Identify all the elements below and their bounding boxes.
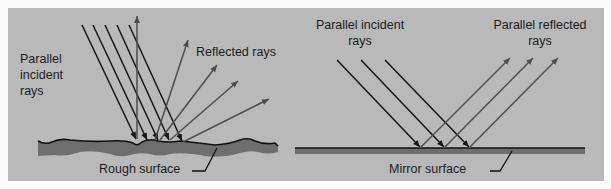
rough-surface bbox=[38, 139, 278, 157]
mirror-surface bbox=[295, 148, 585, 154]
rough-reflected-label: Reflected rays bbox=[196, 44, 276, 60]
rough-reflected-rays bbox=[137, 16, 269, 142]
mirror-reflected-label: Parallel reflected rays bbox=[482, 17, 598, 49]
reflected-ray-arrow bbox=[420, 58, 510, 148]
mirror-surface-label: Mirror surface bbox=[389, 161, 466, 177]
mirror-incident-rays bbox=[337, 60, 469, 147]
incident-ray-arrow bbox=[337, 60, 420, 147]
mirror-incident-label: Parallel incident rays bbox=[300, 17, 420, 49]
reflected-ray-arrow bbox=[183, 99, 269, 142]
mirror-reflected-label-line2: rays bbox=[482, 33, 598, 49]
rough-incident-label: Parallel incident rays bbox=[20, 51, 63, 99]
reflected-ray-arrow bbox=[469, 58, 558, 148]
mirror-incident-label-line1: Parallel incident bbox=[300, 17, 420, 33]
rough-incident-label-line3: rays bbox=[20, 83, 63, 99]
rough-incident-label-line2: incident bbox=[20, 67, 63, 83]
rough-incident-rays bbox=[82, 25, 182, 141]
incident-ray-arrow bbox=[105, 25, 158, 140]
incident-ray-arrow bbox=[385, 60, 469, 147]
reflected-ray-arrow bbox=[444, 58, 533, 148]
incident-ray-arrow bbox=[93, 25, 147, 140]
rough-surface-label: Rough surface bbox=[99, 161, 180, 177]
incident-ray-arrow bbox=[361, 60, 444, 147]
rough-incident-label-line1: Parallel bbox=[20, 51, 63, 67]
incident-ray-arrow bbox=[82, 25, 136, 139]
mirror-reflected-rays bbox=[420, 58, 558, 148]
mirror-incident-label-line2: rays bbox=[300, 33, 420, 49]
mirror-reflected-label-line1: Parallel reflected bbox=[482, 17, 598, 33]
